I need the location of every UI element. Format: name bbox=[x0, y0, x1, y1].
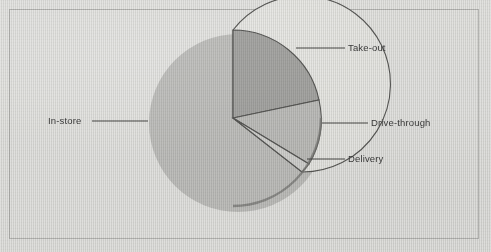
pie-chart-plot-area: Take-out Drive-through Delivery In-store bbox=[0, 0, 491, 252]
slice-label-drive-through: Drive-through bbox=[371, 117, 431, 128]
slice-label-in-store: In-store bbox=[48, 115, 81, 126]
slice-label-take-out: Take-out bbox=[348, 42, 386, 53]
slice-label-delivery: Delivery bbox=[348, 153, 384, 164]
